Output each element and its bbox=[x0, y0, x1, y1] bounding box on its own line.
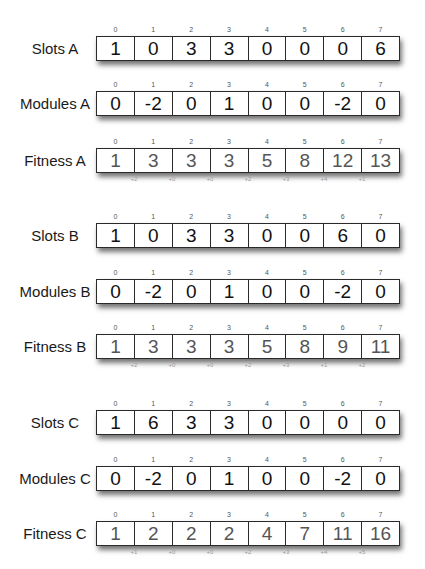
array-cell: 50 bbox=[286, 467, 324, 490]
cell-value: 0 bbox=[97, 467, 134, 490]
array-cell: 50 bbox=[286, 411, 324, 434]
modules-c-array: 00 1-2 20 31 40 50 6-2 70 bbox=[96, 466, 400, 491]
cell-index: 0 bbox=[97, 81, 134, 89]
modules-a-row: Modules A 00 1-2 20 31 40 50 6-2 70 bbox=[0, 91, 425, 131]
cell-value: 1 bbox=[97, 335, 134, 358]
cell-index: 6 bbox=[324, 324, 361, 332]
array-cell: 33 bbox=[211, 149, 249, 172]
cell-index: 6 bbox=[324, 26, 361, 34]
array-cell: 23 bbox=[173, 37, 211, 60]
delta-label: +2 bbox=[238, 361, 258, 369]
cell-index: 1 bbox=[135, 213, 172, 221]
array-cell: 716 bbox=[362, 522, 399, 545]
cell-value: 0 bbox=[362, 467, 399, 490]
array-cell: 40 bbox=[249, 92, 287, 115]
cell-index: 6 bbox=[324, 138, 361, 146]
delta-label: +0 bbox=[200, 175, 220, 183]
array-cell: 10 bbox=[135, 37, 173, 60]
slots-c-row: Slots C 01 16 23 33 40 50 60 70 bbox=[0, 410, 425, 450]
cell-index: 3 bbox=[211, 456, 248, 464]
array-cell: 70 bbox=[362, 467, 399, 490]
cell-index: 6 bbox=[324, 456, 361, 464]
cell-value: 0 bbox=[324, 37, 361, 60]
cell-value: 1 bbox=[97, 522, 134, 545]
array-cell: 33 bbox=[211, 411, 249, 434]
array-cell: 6-2 bbox=[324, 92, 362, 115]
array-cell: 33 bbox=[211, 37, 249, 60]
cell-value: 1 bbox=[211, 467, 248, 490]
cell-value: 6 bbox=[362, 37, 399, 60]
cell-value: 0 bbox=[362, 411, 399, 434]
cell-index: 5 bbox=[286, 511, 323, 519]
cell-index: 7 bbox=[362, 138, 399, 146]
cell-index: 7 bbox=[362, 400, 399, 408]
cell-value: 0 bbox=[249, 467, 286, 490]
cell-index: 0 bbox=[97, 138, 134, 146]
array-cell: 01 bbox=[97, 522, 135, 545]
row-label: Slots A bbox=[0, 36, 110, 61]
cell-value: 6 bbox=[324, 224, 361, 247]
fitness-a-deltas: +2 +0 +0 +2 +3 +4 +1 bbox=[96, 175, 400, 185]
array-cell: 01 bbox=[97, 149, 135, 172]
cell-index: 5 bbox=[286, 213, 323, 221]
delta-label: +4 bbox=[314, 548, 334, 556]
cell-index: 7 bbox=[362, 269, 399, 277]
array-cell: 23 bbox=[173, 149, 211, 172]
array-cell: 6-2 bbox=[324, 467, 362, 490]
array-cell: 6-2 bbox=[324, 280, 362, 303]
array-cell: 13 bbox=[135, 335, 173, 358]
array-cell: 01 bbox=[97, 37, 135, 60]
cell-value: 0 bbox=[286, 411, 323, 434]
cell-index: 0 bbox=[97, 324, 134, 332]
cell-index: 2 bbox=[173, 324, 210, 332]
cell-index: 7 bbox=[362, 324, 399, 332]
cell-value: 0 bbox=[135, 37, 172, 60]
array-cell: 57 bbox=[286, 522, 324, 545]
cell-index: 3 bbox=[211, 324, 248, 332]
delta-label: +0 bbox=[162, 361, 182, 369]
cell-value: 3 bbox=[173, 335, 210, 358]
array-cell: 50 bbox=[286, 92, 324, 115]
cell-index: 0 bbox=[97, 213, 134, 221]
cell-value: 3 bbox=[135, 335, 172, 358]
row-label: Fitness B bbox=[0, 334, 110, 359]
cell-index: 4 bbox=[249, 269, 286, 277]
cell-index: 0 bbox=[97, 26, 134, 34]
fitness-c-row: Fitness C 01 12 22 32 44 57 611 716 +1 +… bbox=[0, 521, 425, 561]
array-cell: 66 bbox=[324, 224, 362, 247]
cell-index: 5 bbox=[286, 400, 323, 408]
array-cell: 23 bbox=[173, 335, 211, 358]
fitness-a-array: 01 13 23 33 45 58 612 713 bbox=[96, 148, 400, 173]
cell-index: 0 bbox=[97, 269, 134, 277]
cell-index: 0 bbox=[97, 400, 134, 408]
delta-label: +3 bbox=[276, 361, 296, 369]
cell-index: 1 bbox=[135, 324, 172, 332]
cell-value: -2 bbox=[135, 280, 172, 303]
cell-index: 0 bbox=[97, 511, 134, 519]
cell-index: 5 bbox=[286, 26, 323, 34]
cell-index: 4 bbox=[249, 400, 286, 408]
array-cell: 00 bbox=[97, 92, 135, 115]
array-cell: 20 bbox=[173, 467, 211, 490]
cell-index: 2 bbox=[173, 400, 210, 408]
array-cell: 70 bbox=[362, 92, 399, 115]
delta-label: +0 bbox=[162, 175, 182, 183]
cell-index: 2 bbox=[173, 269, 210, 277]
array-cell: 50 bbox=[286, 280, 324, 303]
cell-value: 3 bbox=[211, 335, 248, 358]
delta-label: +1 bbox=[314, 361, 334, 369]
array-cell: 32 bbox=[211, 522, 249, 545]
delta-label: +2 bbox=[124, 361, 144, 369]
array-cell: 1-2 bbox=[135, 92, 173, 115]
array-cell: 20 bbox=[173, 92, 211, 115]
cell-value: 3 bbox=[211, 224, 248, 247]
modules-b-array: 00 1-2 20 31 40 50 6-2 70 bbox=[96, 279, 400, 304]
cell-value: -2 bbox=[324, 467, 361, 490]
cell-index: 5 bbox=[286, 81, 323, 89]
array-cell: 70 bbox=[362, 411, 399, 434]
cell-index: 2 bbox=[173, 456, 210, 464]
delta-label: +2 bbox=[352, 361, 372, 369]
row-label: Slots B bbox=[0, 223, 110, 248]
delta-label: +5 bbox=[352, 548, 372, 556]
delta-label: +2 bbox=[238, 175, 258, 183]
